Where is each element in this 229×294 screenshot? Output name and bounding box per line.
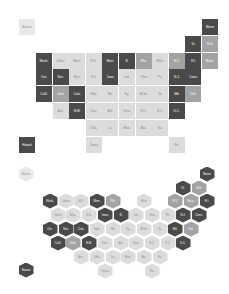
grid-tile-ind[interactable]: Ind. — [119, 69, 135, 85]
hex-tile-nev[interactable]: Nev. — [59, 222, 74, 237]
hex-tile-texas[interactable]: Texas — [98, 264, 113, 279]
hex-tile-mass[interactable]: Mass. — [184, 194, 199, 209]
grid-tile-dc[interactable]: D.C. — [169, 103, 185, 119]
grid-tile-ny[interactable]: N.Y. — [169, 53, 185, 69]
grid-tile-minn[interactable]: Minn. — [102, 53, 118, 69]
grid-tile-kan[interactable]: Kan. — [86, 103, 102, 119]
grid-tile-iowa[interactable]: Iowa — [102, 69, 118, 85]
hex-tile-nc[interactable]: N.C. — [145, 236, 160, 251]
grid-tile-vt[interactable]: Vt. — [185, 36, 201, 52]
hex-tile-colo[interactable]: Colo. — [74, 222, 89, 237]
hex-tile-vt[interactable]: Vt. — [176, 181, 191, 196]
hex-tile-la[interactable]: La. — [106, 250, 121, 265]
hex-tile-wis[interactable]: Wis. — [106, 194, 121, 209]
grid-tile-okla[interactable]: Okla. — [86, 120, 102, 136]
hex-tile-ark[interactable]: Ark. — [114, 236, 129, 251]
grid-tile-ala[interactable]: Ala. — [136, 120, 152, 136]
grid-tile-nm[interactable]: N.M. — [69, 103, 85, 119]
hex-tile-pa[interactable]: Pa. — [161, 208, 176, 223]
grid-tile-ark[interactable]: Ark. — [102, 103, 118, 119]
hex-tile-mo[interactable]: Mo. — [106, 222, 121, 237]
grid-tile-neb[interactable]: Neb. — [86, 86, 102, 102]
hex-tile-ala[interactable]: Ala. — [137, 250, 152, 265]
grid-tile-wash[interactable]: Wash. — [36, 53, 52, 69]
hex-tile-okla[interactable]: Okla. — [90, 250, 105, 265]
grid-tile-idaho[interactable]: Idaho — [53, 53, 69, 69]
grid-tile-pa[interactable]: Pa. — [152, 69, 168, 85]
grid-tile-ga[interactable]: Ga. — [152, 120, 168, 136]
grid-tile-sc[interactable]: S.C. — [152, 103, 168, 119]
grid-tile-maine[interactable]: Maine — [202, 19, 218, 35]
hex-tile-ind[interactable]: Ind. — [129, 208, 144, 223]
hex-tile-minn[interactable]: Minn. — [90, 194, 105, 209]
hex-tile-wyo[interactable]: Wyo. — [66, 208, 81, 223]
hex-tile-wash[interactable]: Wash. — [43, 194, 58, 209]
hex-tile-va[interactable]: Va. — [153, 222, 168, 237]
hex-tile-idaho[interactable]: Idaho — [59, 194, 74, 209]
grid-tile-nev[interactable]: Nev. — [53, 69, 69, 85]
hex-tile-utah[interactable]: Utah — [66, 236, 81, 251]
grid-tile-va[interactable]: Va. — [152, 86, 168, 102]
grid-tile-ky[interactable]: Ky. — [119, 86, 135, 102]
grid-tile-ore[interactable]: Ore. — [36, 69, 52, 85]
grid-tile-mont[interactable]: Mont. — [69, 53, 85, 69]
hex-tile-ohio[interactable]: Ohio — [145, 208, 160, 223]
hex-tile-ny[interactable]: N.Y. — [168, 194, 183, 209]
hex-tile-kan[interactable]: Kan. — [98, 236, 113, 251]
hex-tile-conn[interactable]: Conn. — [192, 208, 207, 223]
grid-tile-tenn[interactable]: Tenn. — [119, 103, 135, 119]
hex-tile-alaska[interactable]: Alaska — [19, 167, 34, 182]
grid-tile-nd[interactable]: N.D. — [86, 53, 102, 69]
hex-tile-calif[interactable]: Calif. — [51, 236, 66, 251]
hex-tile-ill[interactable]: Ill. — [114, 208, 129, 223]
hex-tile-md[interactable]: Md. — [168, 222, 183, 237]
grid-tile-wyo[interactable]: Wyo. — [69, 69, 85, 85]
grid-tile-nh[interactable]: N.H. — [202, 36, 218, 52]
grid-tile-md[interactable]: Md. — [169, 86, 185, 102]
grid-tile-la[interactable]: La. — [102, 120, 118, 136]
hex-tile-sc[interactable]: S.C. — [161, 236, 176, 251]
hex-tile-nd[interactable]: N.D. — [74, 194, 89, 209]
hex-tile-ga[interactable]: Ga. — [153, 250, 168, 265]
hex-tile-maine[interactable]: Maine — [200, 167, 215, 182]
hex-tile-idaho[interactable]: Idaho — [51, 208, 66, 223]
hex-tile-wva[interactable]: W.Va. — [137, 222, 152, 237]
grid-tile-ill[interactable]: Ill. — [119, 53, 135, 69]
grid-tile-ariz[interactable]: Ariz. — [53, 103, 69, 119]
hex-tile-del[interactable]: Del. — [184, 222, 199, 237]
hex-tile-ri[interactable]: R.I. — [200, 194, 215, 209]
grid-tile-conn[interactable]: Conn. — [185, 69, 201, 85]
grid-tile-nj[interactable]: N.J. — [169, 69, 185, 85]
grid-tile-wva[interactable]: W.Va. — [136, 86, 152, 102]
hex-tile-neb[interactable]: Neb. — [90, 222, 105, 237]
grid-tile-ri[interactable]: R.I. — [185, 53, 201, 69]
hex-tile-miss[interactable]: Miss. — [121, 250, 136, 265]
hex-tile-nm[interactable]: N.M. — [82, 236, 97, 251]
hex-tile-nh[interactable]: N.H. — [192, 181, 207, 196]
hex-tile-ky[interactable]: Ky. — [121, 222, 136, 237]
grid-tile-mo[interactable]: Mo. — [102, 86, 118, 102]
grid-tile-mass[interactable]: Mass. — [202, 53, 218, 69]
grid-tile-mich[interactable]: Mich. — [152, 53, 168, 69]
grid-tile-wis[interactable]: Wis. — [136, 53, 152, 69]
hex-tile-dc[interactable]: D.C. — [176, 236, 191, 251]
hex-tile-map: AlaskaMaineVt.N.H.Wash.IdahoN.D.Minn.Wis… — [0, 150, 229, 294]
hex-tile-fla[interactable]: Fla. — [145, 264, 160, 279]
grid-tile-calif[interactable]: Calif. — [36, 86, 52, 102]
hex-tile-nj[interactable]: N.J. — [176, 208, 191, 223]
hex-tile-mich[interactable]: Mich. — [137, 194, 152, 209]
grid-tile-utah[interactable]: Utah — [53, 86, 69, 102]
hex-tile-iowa[interactable]: Iowa — [98, 208, 113, 223]
hex-tile-tenn[interactable]: Tenn. — [129, 236, 144, 251]
grid-tile-sd[interactable]: S.D. — [86, 69, 102, 85]
grid-tile-ohio[interactable]: Ohio — [136, 69, 152, 85]
hex-tile-ariz[interactable]: Ariz. — [74, 250, 89, 265]
hex-tile-hawaii[interactable]: Hawaii — [19, 263, 34, 278]
grid-tile-del[interactable]: Del. — [185, 86, 201, 102]
grid-tile-nc[interactable]: N.C. — [136, 103, 152, 119]
grid-tile-alaska[interactable]: Alaska — [19, 19, 35, 35]
hex-tile-ore[interactable]: Ore. — [43, 222, 58, 237]
grid-tile-miss[interactable]: Miss. — [119, 120, 135, 136]
hex-tile-sd[interactable]: S.D. — [82, 208, 97, 223]
grid-tile-colo[interactable]: Colo. — [69, 86, 85, 102]
